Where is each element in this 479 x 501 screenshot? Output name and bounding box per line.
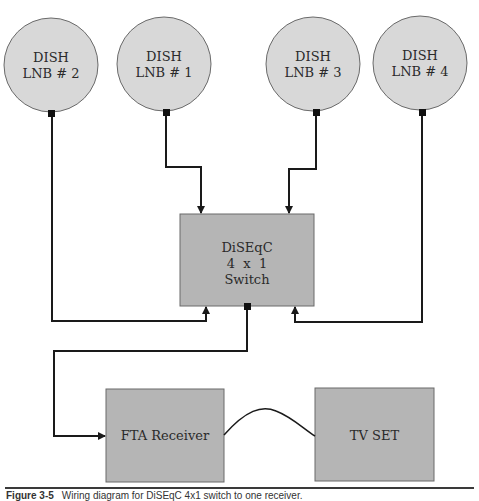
connector-lnb3 bbox=[313, 109, 320, 116]
receiver-label: FTA Receiver bbox=[106, 428, 224, 444]
dish-lnb2-label: DISHLNB # 2 bbox=[16, 50, 86, 82]
connector-lnb4 bbox=[419, 109, 426, 116]
switch-label: DiSEqC4 x 1Switch bbox=[212, 240, 282, 288]
tv-label: TV SET bbox=[315, 428, 434, 444]
connector-lnb1 bbox=[163, 109, 170, 116]
dish-lnb3-label: DISHLNB # 3 bbox=[278, 49, 348, 81]
connector-switch-output bbox=[244, 303, 251, 310]
wiring-diagram: DISHLNB # 2 DISHLNB # 1 DISHLNB # 3 DISH… bbox=[0, 0, 479, 501]
caption-rule bbox=[5, 487, 474, 489]
connector-lnb2 bbox=[48, 110, 55, 117]
figure-caption: Figure 3-5Wiring diagram for DiSEqC 4x1 … bbox=[6, 490, 302, 501]
dish-lnb4-label: DISHLNB # 4 bbox=[385, 48, 455, 80]
wire-lnb3-to-switch bbox=[289, 114, 316, 213]
wire-lnb1-to-switch bbox=[166, 114, 201, 213]
wire-receiver-to-tv bbox=[224, 409, 315, 436]
figure-number: Figure 3-5 bbox=[6, 490, 54, 501]
dish-lnb1-label: DISHLNB # 1 bbox=[129, 49, 199, 81]
caption-text: Wiring diagram for DiSEqC 4x1 switch to … bbox=[62, 490, 303, 501]
